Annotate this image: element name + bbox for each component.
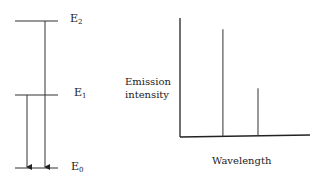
x-axis-label: Wavelength bbox=[212, 155, 271, 167]
y-axis-label-line1: Emission bbox=[125, 76, 171, 88]
level-e2-label: E2 bbox=[70, 13, 83, 28]
y-axis-label-line2: intensity bbox=[125, 89, 169, 101]
level-e1-label: E1 bbox=[74, 87, 87, 102]
level-e0-label: E0 bbox=[71, 161, 84, 176]
x-axis bbox=[180, 135, 310, 137]
